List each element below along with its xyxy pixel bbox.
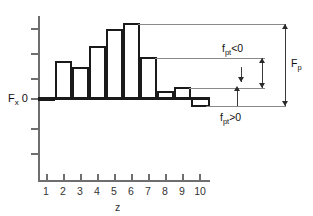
x-axis-tick (114, 174, 116, 181)
fptneg-arrowhead-top (259, 58, 265, 63)
x-axis-tick (165, 174, 167, 181)
y-axis-tick (31, 78, 39, 80)
x-axis-tick (148, 174, 150, 181)
x-axis-label: z (115, 201, 120, 213)
x-axis-tick (97, 174, 99, 181)
fpt-negative-label: fpt<0 (222, 43, 243, 57)
guide-line-top (138, 24, 286, 25)
x-tick-label: 10 (190, 186, 210, 197)
x-axis-tick (63, 174, 65, 181)
bar-z5 (106, 29, 123, 100)
fptpos-arrowhead (234, 86, 240, 91)
bar-z3 (72, 67, 89, 100)
fp-arrowhead-top (282, 24, 288, 29)
x-axis-tick (131, 174, 133, 181)
y-axis-tick (31, 28, 39, 30)
y-axis-tick (31, 153, 39, 155)
fp-arrowhead-bottom (282, 101, 288, 106)
bar-z7 (140, 57, 157, 100)
guide-line-lower (189, 88, 265, 89)
fpt-negative-label-sub: pt (225, 48, 231, 57)
bar-z2 (55, 61, 72, 100)
bar-z4 (89, 46, 106, 100)
y-axis-tick (31, 128, 39, 130)
fx-origin-label-sub: x (15, 98, 19, 107)
y-axis-tick (31, 53, 39, 55)
fx-origin-label: Fx 0 (8, 92, 28, 107)
fptneg-inner-arrowhead (238, 77, 244, 82)
x-axis-tick (199, 174, 201, 181)
x-axis-tick (46, 174, 48, 181)
fp-arrow-shaft (285, 24, 286, 106)
fpt-positive-label: fpt>0 (220, 112, 241, 126)
guide-line-bottom (206, 106, 286, 107)
x-tick-label: 9 (172, 186, 192, 197)
fp-label-sub: p (297, 63, 301, 72)
zero-baseline (38, 97, 210, 100)
x-axis-tick (80, 174, 82, 181)
fpt-positive-label-sub: pt (223, 117, 229, 126)
bar-z6 (123, 23, 140, 100)
fp-label: Fp (291, 58, 302, 72)
fptneg-arrowhead-bottom (259, 83, 265, 88)
histogram-figure: Fp fpt<0 fpt>0 Fx 0 1 2 3 4 5 6 7 8 9 10… (0, 0, 313, 216)
guide-line-mid (155, 58, 265, 59)
x-axis-tick (182, 174, 184, 181)
